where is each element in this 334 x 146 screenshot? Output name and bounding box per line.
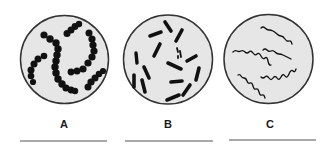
panel-a: A: [20, 16, 109, 142]
panel-b: B: [124, 15, 214, 141]
bacteria-morphology-diagram: A B: [0, 0, 334, 146]
panel-label-a: A: [60, 118, 68, 130]
slide-circle-c: [224, 15, 313, 104]
panel-label-b: B: [164, 118, 172, 130]
panel-label-c: C: [266, 118, 274, 130]
panel-c: C: [224, 15, 316, 141]
